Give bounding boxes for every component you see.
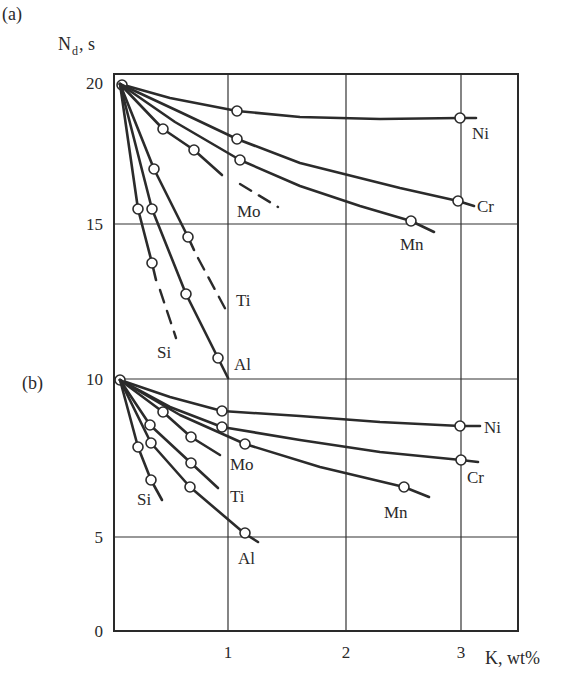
data-point-marker	[185, 482, 195, 492]
x-tick-label: 3	[457, 643, 466, 662]
data-point-marker	[147, 204, 157, 214]
x-tick-label: 2	[342, 643, 351, 662]
data-point-marker	[456, 455, 466, 465]
data-point-marker	[158, 407, 168, 417]
series-label: Si	[137, 490, 151, 509]
data-point-marker	[147, 258, 157, 268]
x-tick-label: 1	[224, 643, 233, 662]
data-point-marker	[183, 232, 193, 242]
axes-box	[114, 74, 518, 631]
series-ti-a: Ti	[120, 84, 251, 312]
data-point-marker	[146, 475, 156, 485]
data-point-marker	[455, 421, 465, 431]
series-line	[120, 84, 476, 119]
plot-frame	[114, 74, 518, 631]
data-point-marker	[186, 432, 196, 442]
y-tick-label: 0	[95, 622, 104, 641]
series-label: Mn	[400, 235, 424, 254]
series-line	[120, 84, 474, 206]
y-axis-title-main: N	[58, 34, 71, 54]
series-label: Ni	[472, 124, 489, 143]
panel-a-label: (a)	[2, 4, 22, 25]
series-cr-a: Cr	[120, 84, 494, 216]
y-axis-title: N d , s	[58, 34, 95, 58]
data-point-marker	[240, 528, 250, 538]
panel-b-curves: NiCrMnMoTiAlSi	[115, 375, 501, 568]
panel-b-label: (b)	[22, 373, 43, 394]
data-point-marker	[235, 155, 245, 165]
data-point-marker	[146, 438, 156, 448]
data-point-marker	[232, 106, 242, 116]
series-extrapolation	[198, 258, 227, 312]
y-axis-title-suffix: , s	[79, 34, 95, 54]
y-tick-label: 20	[86, 74, 103, 93]
series-label: Mn	[384, 503, 408, 522]
series-al-b: Al	[120, 380, 258, 568]
series-label: Ti	[230, 487, 245, 506]
y-axis-title-sub: d	[72, 44, 78, 58]
series-label: Cr	[467, 468, 484, 487]
data-point-marker	[213, 353, 223, 363]
data-point-marker	[133, 442, 143, 452]
y-tick-label: 15	[86, 215, 103, 234]
data-point-marker	[453, 196, 463, 206]
chart-canvas: NiCrMnMoTiAlSi NiCrMnMoTiAlSi 1232015105…	[0, 0, 577, 695]
series-label: Cr	[477, 197, 494, 216]
y-tick-label: 10	[86, 370, 103, 389]
data-point-marker	[189, 145, 199, 155]
data-point-marker	[232, 134, 242, 144]
series-ni-a: Ni	[117, 80, 489, 143]
data-point-marker	[186, 458, 196, 468]
grid	[114, 74, 518, 631]
x-axis-title: K, wt%	[485, 648, 540, 668]
data-point-marker	[455, 113, 465, 123]
data-point-marker	[149, 164, 159, 174]
data-point-marker	[145, 420, 155, 430]
series-line	[120, 84, 156, 280]
panel-a-curves: NiCrMnMoTiAlSi	[117, 80, 494, 378]
series-label: Si	[157, 343, 171, 362]
data-point-marker	[133, 204, 143, 214]
series-ni-b: Ni	[115, 375, 501, 437]
data-point-marker	[406, 216, 416, 226]
data-point-marker	[181, 289, 191, 299]
data-point-marker	[399, 482, 409, 492]
y-tick-label: 5	[95, 528, 104, 547]
series-line	[120, 380, 480, 426]
series-mn-a: Mn	[120, 84, 434, 254]
series-label: Ni	[484, 418, 501, 437]
series-label: Mo	[230, 455, 254, 474]
series-label: Mo	[237, 202, 261, 221]
data-point-marker	[158, 124, 168, 134]
data-point-marker	[217, 406, 227, 416]
series-label: Al	[234, 355, 251, 374]
series-label: Ti	[236, 291, 251, 310]
data-point-marker	[217, 422, 227, 432]
series-label: Al	[238, 549, 255, 568]
data-point-marker	[240, 439, 250, 449]
axis-ticks: 12320151050	[86, 74, 465, 662]
series-extrapolation	[160, 290, 176, 338]
figure-nd-vs-k: NiCrMnMoTiAlSi NiCrMnMoTiAlSi 1232015105…	[0, 0, 577, 695]
